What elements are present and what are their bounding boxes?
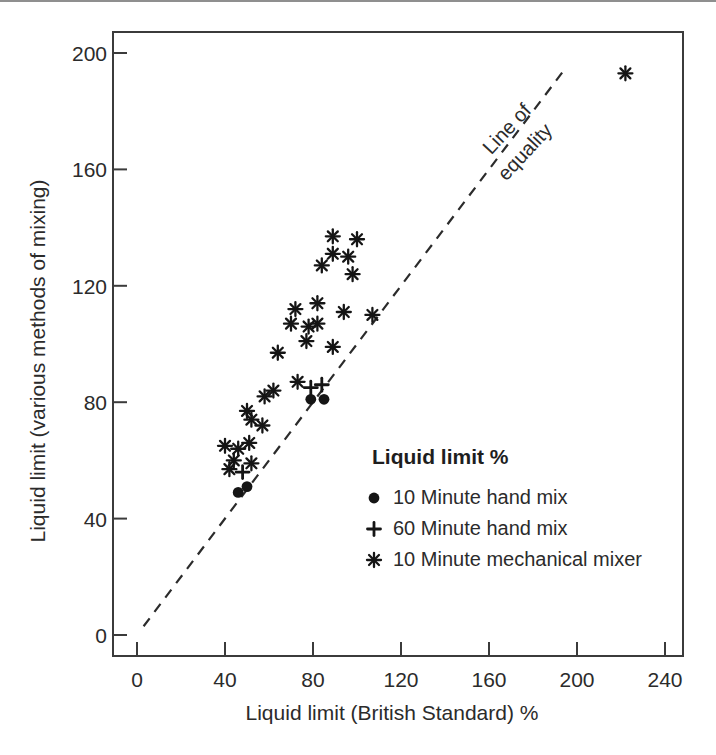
asterisk-marker bbox=[288, 302, 302, 316]
series-asterisk bbox=[218, 66, 632, 476]
circle-marker bbox=[319, 394, 330, 405]
asterisk-marker bbox=[350, 232, 364, 246]
x-tick-label: 200 bbox=[559, 668, 594, 691]
legend-item: 10 Minute hand mix bbox=[365, 482, 685, 513]
legend: Liquid limit % 10 Minute hand mix60 Minu… bbox=[365, 446, 685, 575]
plus-legend-icon bbox=[365, 520, 383, 538]
x-tick-label: 120 bbox=[383, 668, 418, 691]
circle-marker bbox=[369, 492, 380, 503]
asterisk-marker bbox=[242, 436, 256, 450]
asterisk-marker bbox=[367, 553, 381, 567]
y-tick-label: 0 bbox=[95, 624, 107, 647]
y-tick-label: 120 bbox=[72, 275, 107, 298]
asterisk-marker bbox=[341, 250, 355, 264]
asterisk-marker bbox=[337, 305, 351, 319]
asterisk-marker bbox=[310, 296, 324, 310]
legend-item-label: 60 Minute hand mix bbox=[393, 517, 568, 540]
plus-marker bbox=[315, 378, 328, 391]
asterisk-marker bbox=[244, 456, 258, 470]
circle-marker bbox=[242, 481, 253, 492]
x-axis-title: Liquid limit (British Standard) % bbox=[246, 701, 539, 725]
asterisk-marker bbox=[310, 317, 324, 331]
asterisk-marker bbox=[284, 317, 298, 331]
asterisk-marker bbox=[365, 308, 379, 322]
asterisk-marker bbox=[218, 439, 232, 453]
y-tick-label: 80 bbox=[84, 391, 107, 414]
x-tick-label: 160 bbox=[471, 668, 506, 691]
circle-legend-icon bbox=[365, 489, 383, 507]
legend-items: 10 Minute hand mix60 Minute hand mix10 M… bbox=[365, 482, 685, 575]
asterisk-marker bbox=[326, 340, 340, 354]
x-tick-label: 0 bbox=[131, 668, 143, 691]
asterisk-marker bbox=[271, 346, 285, 360]
scatter-plot-canvas: 0408012016020024004080120160200 bbox=[0, 0, 716, 755]
plus-marker bbox=[368, 522, 381, 535]
asterisk-marker bbox=[346, 267, 360, 281]
x-tick-label: 80 bbox=[301, 668, 324, 691]
x-tick-label: 40 bbox=[213, 668, 236, 691]
y-tick-label: 160 bbox=[72, 158, 107, 181]
asterisk-marker bbox=[291, 375, 305, 389]
asterisk-marker bbox=[326, 229, 340, 243]
scatter-plot-figure: 0408012016020024004080120160200 Liquid l… bbox=[0, 0, 716, 755]
legend-title: Liquid limit % bbox=[372, 446, 685, 468]
legend-item-label: 10 Minute mechanical mixer bbox=[393, 548, 642, 571]
legend-item: 60 Minute hand mix bbox=[365, 513, 685, 544]
y-axis-title: Liquid limit (various methods of mixing) bbox=[26, 180, 50, 543]
asterisk-legend-icon bbox=[365, 551, 383, 569]
asterisk-marker bbox=[299, 334, 313, 348]
asterisk-marker bbox=[266, 384, 280, 398]
x-tick-label: 240 bbox=[647, 668, 682, 691]
asterisk-marker bbox=[315, 258, 329, 272]
asterisk-marker bbox=[326, 247, 340, 261]
legend-item-label: 10 Minute hand mix bbox=[393, 486, 568, 509]
circle-marker bbox=[233, 487, 244, 498]
y-tick-label: 40 bbox=[84, 508, 107, 531]
plus-marker bbox=[304, 381, 317, 394]
legend-item: 10 Minute mechanical mixer bbox=[365, 544, 685, 575]
asterisk-marker bbox=[255, 418, 269, 432]
asterisk-marker bbox=[618, 66, 632, 80]
y-tick-label: 200 bbox=[72, 42, 107, 65]
